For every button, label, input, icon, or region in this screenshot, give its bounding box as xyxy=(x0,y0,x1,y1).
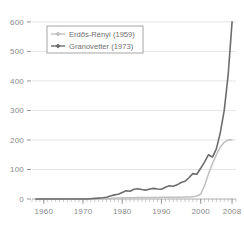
y-tick-marks xyxy=(27,22,31,199)
y-tick-label: 200 xyxy=(10,136,24,145)
chart-legend[interactable]: Erdős-Rényi (1959)Granovetter (1973) xyxy=(47,26,143,53)
y-tick-label: 400 xyxy=(10,77,24,86)
legend-label: Erdős-Rényi (1959) xyxy=(69,30,135,39)
legend-label: Granovetter (1973) xyxy=(69,42,134,51)
x-tick-label: 1990 xyxy=(152,207,171,216)
x-tick-label: 1970 xyxy=(74,207,93,216)
x-tick-label: 2008 xyxy=(223,207,242,216)
y-tick-label: 500 xyxy=(10,47,24,56)
x-tick-label: 2000 xyxy=(191,207,210,216)
y-tick-label: 600 xyxy=(10,18,24,27)
x-tick-label: 1980 xyxy=(113,207,132,216)
chart-canvas: 0100200300400500600 19601970198019902000… xyxy=(0,0,244,229)
y-tick-labels: 0100200300400500600 xyxy=(10,18,24,204)
x-tick-label: 1960 xyxy=(34,207,53,216)
y-tick-label: 100 xyxy=(10,165,24,174)
y-tick-label: 300 xyxy=(10,106,24,115)
y-tick-label: 0 xyxy=(19,195,24,204)
x-tick-labels: 196019701980199020002008 xyxy=(34,207,241,216)
citation-line-chart: 0100200300400500600 19601970198019902000… xyxy=(0,0,244,229)
